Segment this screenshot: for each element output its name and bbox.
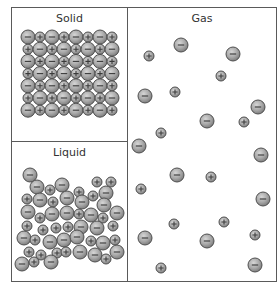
panel-liquid: Liquid: [11, 141, 128, 282]
panel-title-gas: Gas: [128, 12, 276, 25]
panel-gas: Gas: [127, 7, 277, 282]
panel-title-solid: Solid: [12, 12, 127, 25]
panel-solid: Solid: [11, 7, 128, 142]
panel-title-liquid: Liquid: [12, 146, 127, 159]
